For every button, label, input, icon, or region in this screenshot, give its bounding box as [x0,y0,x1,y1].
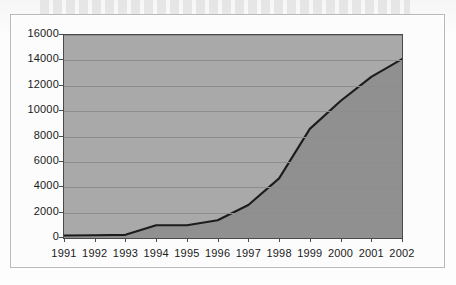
page-background: 0200040006000800010000120001400016000 19… [0,0,456,285]
x-axis-tick-mark [310,238,311,242]
y-axis-tick-mark [59,34,63,35]
x-axis-tick-mark [371,238,372,242]
area-chart: 0200040006000800010000120001400016000 19… [11,15,444,267]
x-axis-tick-mark [187,238,188,242]
x-axis-tick-mark [95,238,96,242]
gridline [64,111,402,112]
scan-bleed-artifact [40,0,410,14]
x-axis-tick-label: 2002 [382,248,422,259]
chart-frame: 0200040006000800010000120001400016000 19… [10,14,445,268]
y-axis-tick-label: 10000 [11,104,59,115]
gridline [64,137,402,138]
y-axis-tick-label: 16000 [11,28,59,39]
y-axis-tick-label: 12000 [11,79,59,90]
gridline [64,35,402,36]
y-axis-tick-mark [59,161,63,162]
y-axis-tick-mark [59,212,63,213]
x-axis-tick-mark [402,238,403,242]
y-axis-tick-label: 4000 [11,180,59,191]
gridline [64,162,402,163]
x-axis-tick-mark [218,238,219,242]
y-axis-tick-mark [59,136,63,137]
y-axis-tick-mark [59,110,63,111]
y-axis-tick-mark [59,237,63,238]
gridline [64,213,402,214]
y-axis-tick-label: 14000 [11,53,59,64]
x-axis-tick-mark [64,238,65,242]
gridline [64,187,402,188]
y-axis-tick-mark [59,186,63,187]
y-axis-tick-label: 2000 [11,206,59,217]
x-axis-tick-mark [125,238,126,242]
x-axis-tick-mark [248,238,249,242]
y-axis-tick-label: 0 [11,231,59,242]
x-axis-tick-mark [279,238,280,242]
y-axis-tick-label: 8000 [11,130,59,141]
x-axis-tick-mark [341,238,342,242]
gridline [64,60,402,61]
y-axis-tick-mark [59,59,63,60]
y-axis-tick-mark [59,85,63,86]
y-axis-tick-label: 6000 [11,155,59,166]
gridline [64,86,402,87]
plot-area [63,34,403,239]
x-axis-tick-mark [156,238,157,242]
